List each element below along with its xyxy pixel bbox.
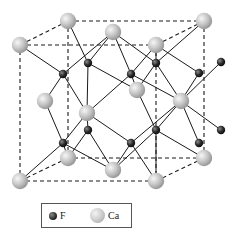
legend: F Ca xyxy=(41,203,132,228)
fluorine-atom xyxy=(127,70,135,78)
legend-item-f: F xyxy=(49,204,66,227)
calcium-atom xyxy=(148,173,164,189)
calcium-atom xyxy=(79,105,95,121)
calcium-atom xyxy=(196,13,212,29)
fluorine-atom xyxy=(59,70,67,78)
legend-label-ca: Ca xyxy=(108,210,119,221)
calcium-atom xyxy=(105,24,121,40)
calcium-atom xyxy=(12,173,28,189)
calcium-atom xyxy=(12,37,28,53)
fluorine-atom xyxy=(217,126,225,134)
fluorine-atom xyxy=(127,139,135,147)
calcium-atom xyxy=(37,93,53,109)
calcium-atom xyxy=(148,37,164,53)
fluorine-atom xyxy=(84,126,92,134)
calcium-atom xyxy=(60,150,76,166)
legend-item-ca: Ca xyxy=(90,204,119,227)
fluorine-atom xyxy=(195,69,203,77)
calcium-atom xyxy=(105,162,121,178)
calcium-atom xyxy=(129,82,145,98)
fluorine-atom xyxy=(152,59,160,67)
calcium-atom xyxy=(60,13,76,29)
fluorine-atom xyxy=(84,59,92,67)
fluorine-atom xyxy=(152,126,160,134)
calcium-atom xyxy=(196,150,212,166)
legend-label-f: F xyxy=(60,210,66,221)
fluorine-atom xyxy=(217,58,225,66)
calcium-atom xyxy=(173,93,189,109)
fluorine-atom-icon xyxy=(49,212,57,220)
fluorine-atom xyxy=(195,139,203,147)
fluorine-atom xyxy=(59,139,67,147)
calcium-atoms xyxy=(12,13,212,189)
calcium-atom-icon xyxy=(90,208,105,223)
